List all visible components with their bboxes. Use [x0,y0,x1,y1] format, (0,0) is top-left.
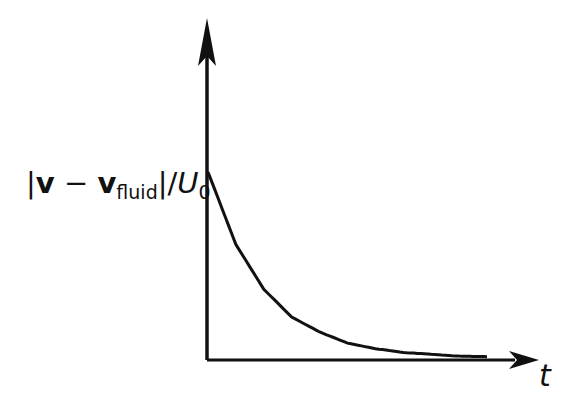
decay-curve [208,172,487,357]
x-axis-label: t [539,358,551,393]
fluid-subscript: fluid [116,181,157,203]
abs-bar-close: |/ [158,166,178,200]
u-subscript: 0 [198,181,210,203]
x-axis [207,351,539,369]
fluid-velocity-symbol: v [97,166,116,200]
abs-bar-open: | [26,166,36,200]
u-symbol: U [177,166,198,200]
velocity-symbol: v [36,166,55,200]
minus-sign: − [55,166,98,200]
y-axis-label: |v − vfluid|/U0 [26,163,211,203]
